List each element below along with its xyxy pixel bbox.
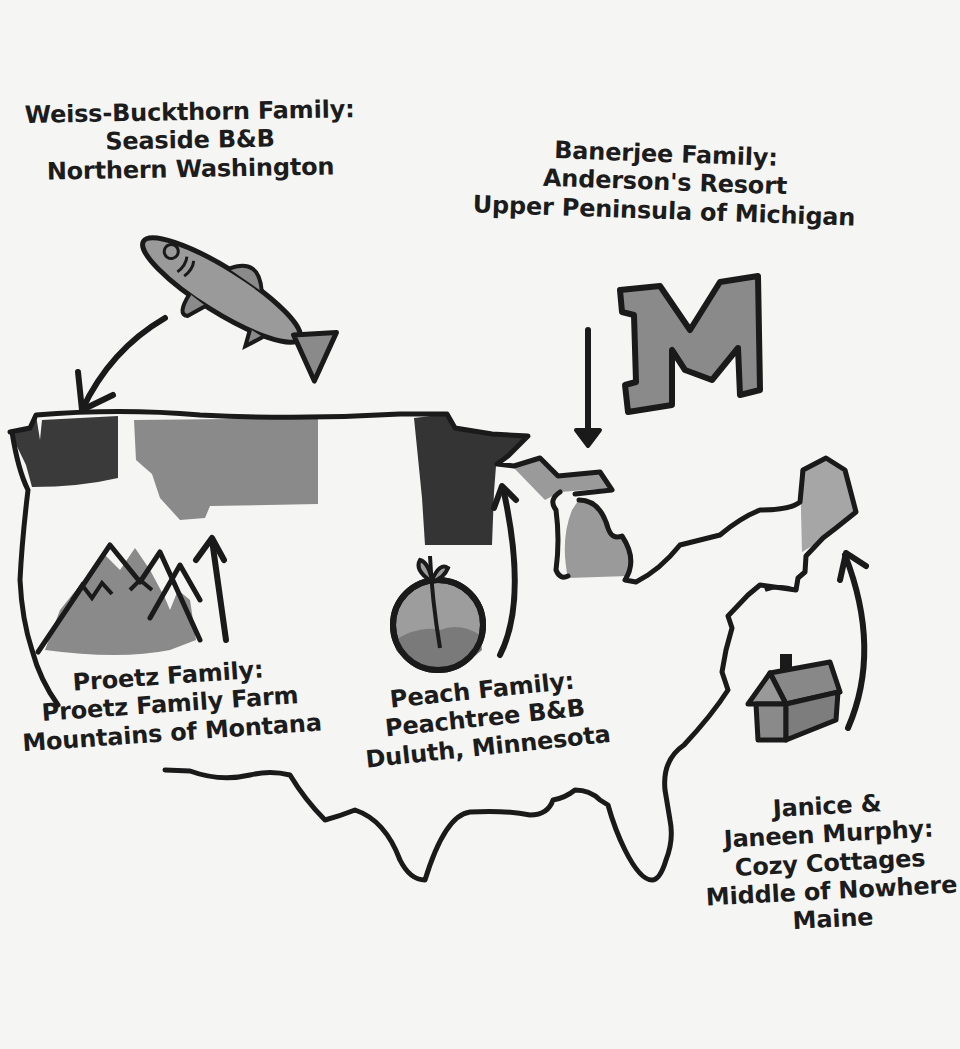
label-michigan: Banerjee Family: Anderson's Resort Upper…	[454, 133, 877, 233]
letter-m-icon	[620, 276, 760, 412]
fish-icon	[122, 212, 348, 392]
map-page: Weiss-Buckthorn Family: Seaside B&B Nort…	[0, 0, 960, 1049]
arrow-to-michigan	[576, 330, 600, 446]
label-washington: Weiss-Buckthorn Family: Seaside B&B Nort…	[19, 95, 360, 186]
label-maine: Janice & Janeen Murphy: Cozy Cottages Mi…	[696, 785, 960, 940]
cabin-icon	[748, 654, 840, 740]
arrow-to-washington	[78, 318, 165, 410]
state-washington	[10, 415, 118, 487]
mountains-icon	[38, 545, 200, 655]
peach-icon	[393, 556, 483, 670]
place-name: Northern Washington	[20, 152, 360, 186]
arrow-to-minnesota	[494, 486, 516, 655]
arrow-to-maine	[840, 553, 866, 728]
state-montana	[134, 418, 318, 520]
arrow-to-montana	[196, 538, 226, 640]
